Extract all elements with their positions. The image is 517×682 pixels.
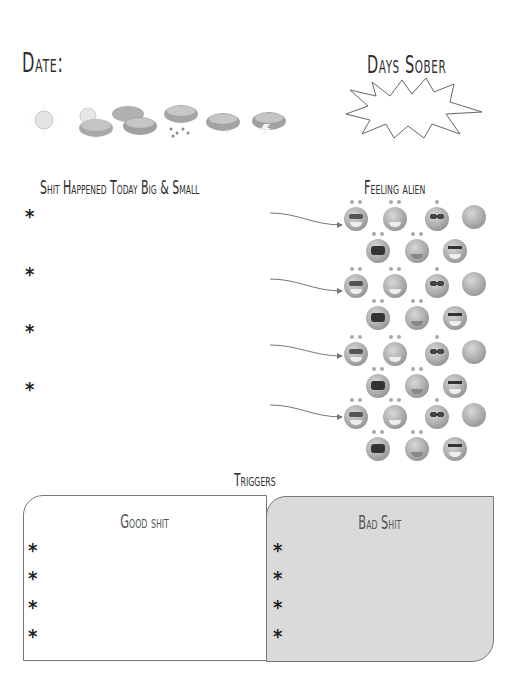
event-bullet-4[interactable]: * bbox=[25, 379, 34, 399]
laughing-alien-icon[interactable] bbox=[383, 342, 407, 366]
feeling-group-4 bbox=[344, 403, 494, 465]
arrow-icon bbox=[270, 405, 342, 417]
sad-alien-icon[interactable] bbox=[462, 205, 486, 229]
laughing-alien-icon[interactable] bbox=[383, 207, 407, 231]
bad-bullet-3[interactable]: * bbox=[273, 597, 282, 617]
bad-box-title: Bad Shit bbox=[267, 511, 493, 533]
cool-alien-icon[interactable] bbox=[344, 405, 368, 429]
good-bullet-1[interactable]: * bbox=[28, 540, 37, 560]
angry-alien-icon[interactable] bbox=[443, 437, 467, 461]
bad-bullet-2[interactable]: * bbox=[273, 568, 282, 588]
upset-alien-icon[interactable] bbox=[405, 437, 429, 461]
laughing-alien-icon[interactable] bbox=[383, 274, 407, 298]
good-triggers-box[interactable]: Good shit * * * * bbox=[23, 495, 267, 661]
angry-alien-icon[interactable] bbox=[443, 374, 467, 398]
svg-text:*: * bbox=[226, 129, 230, 138]
sun-icon[interactable] bbox=[28, 104, 64, 140]
crying-alien-icon[interactable] bbox=[366, 306, 390, 330]
upset-alien-icon[interactable] bbox=[405, 306, 429, 330]
feeling-group-1 bbox=[344, 205, 494, 267]
angry-alien-icon[interactable] bbox=[443, 239, 467, 263]
sad-alien-icon[interactable] bbox=[462, 272, 486, 296]
upset-alien-icon[interactable] bbox=[405, 239, 429, 263]
crying-alien-icon[interactable] bbox=[366, 437, 390, 461]
days-sober-label: Days Sober bbox=[367, 50, 446, 79]
worried-alien-icon[interactable] bbox=[425, 274, 449, 298]
worried-alien-icon[interactable] bbox=[425, 342, 449, 366]
event-bullet-3[interactable]: * bbox=[25, 321, 34, 341]
triggers-title: Triggers bbox=[234, 469, 276, 490]
crying-alien-icon[interactable] bbox=[366, 239, 390, 263]
arrows bbox=[268, 205, 348, 425]
arrow-icon bbox=[270, 213, 342, 225]
rain-cloud-icon[interactable] bbox=[162, 104, 200, 144]
arrow-icon bbox=[270, 279, 342, 291]
good-box-title: Good shit bbox=[24, 510, 266, 532]
worried-alien-icon[interactable] bbox=[425, 207, 449, 231]
bad-bullet-1[interactable]: * bbox=[273, 540, 282, 560]
bad-triggers-box[interactable]: Bad Shit * * * * bbox=[266, 496, 494, 662]
arrow-icon bbox=[270, 345, 342, 356]
laughing-alien-icon[interactable] bbox=[383, 405, 407, 429]
sad-alien-icon[interactable] bbox=[462, 403, 486, 427]
date-label: Date: bbox=[22, 48, 64, 78]
cool-alien-icon[interactable] bbox=[344, 342, 368, 366]
bad-bullet-4[interactable]: * bbox=[273, 626, 282, 646]
sad-alien-icon[interactable] bbox=[462, 340, 486, 364]
angry-alien-icon[interactable] bbox=[443, 306, 467, 330]
good-bullet-4[interactable]: * bbox=[28, 626, 37, 646]
feeling-group-3 bbox=[344, 340, 494, 402]
clouds-icon[interactable] bbox=[110, 104, 158, 140]
worried-alien-icon[interactable] bbox=[425, 405, 449, 429]
cool-alien-icon[interactable] bbox=[344, 274, 368, 298]
good-bullet-3[interactable]: * bbox=[28, 597, 37, 617]
snow-cloud-icon[interactable]: * bbox=[204, 110, 242, 140]
event-bullet-2[interactable]: * bbox=[25, 264, 34, 284]
cool-alien-icon[interactable] bbox=[344, 207, 368, 231]
crying-alien-icon[interactable] bbox=[366, 374, 390, 398]
storm-cloud-icon[interactable] bbox=[250, 110, 288, 136]
days-sober-starburst[interactable] bbox=[342, 76, 487, 140]
upset-alien-icon[interactable] bbox=[405, 374, 429, 398]
feelings-title: Feeling alien bbox=[364, 176, 425, 198]
event-bullet-1[interactable]: * bbox=[25, 206, 34, 226]
events-title: Shit Happened Today Big & Small bbox=[40, 176, 199, 198]
feeling-group-2 bbox=[344, 272, 494, 334]
good-bullet-2[interactable]: * bbox=[28, 568, 37, 588]
